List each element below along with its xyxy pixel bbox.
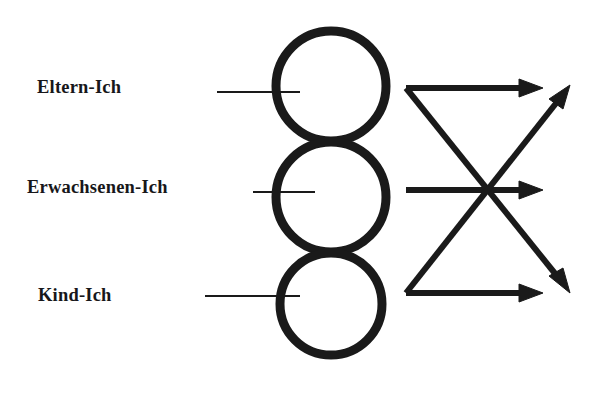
circle-child [280, 253, 382, 355]
circle-parent [276, 31, 386, 141]
label-kind-ich: Kind-Ich [38, 286, 112, 305]
transaction-arrows [406, 79, 570, 302]
arrow-adult-horizontal [406, 181, 543, 199]
diagram-canvas: Eltern-Ich Erwachsenen-Ich Kind-Ich [0, 0, 601, 393]
circle-adult [276, 142, 386, 252]
arrow-parent-horizontal [406, 79, 543, 97]
label-eltern-ich: Eltern-Ich [37, 78, 121, 97]
label-erwachsenen-ich: Erwachsenen-Ich [27, 178, 168, 197]
arrow-child-horizontal [406, 284, 543, 302]
